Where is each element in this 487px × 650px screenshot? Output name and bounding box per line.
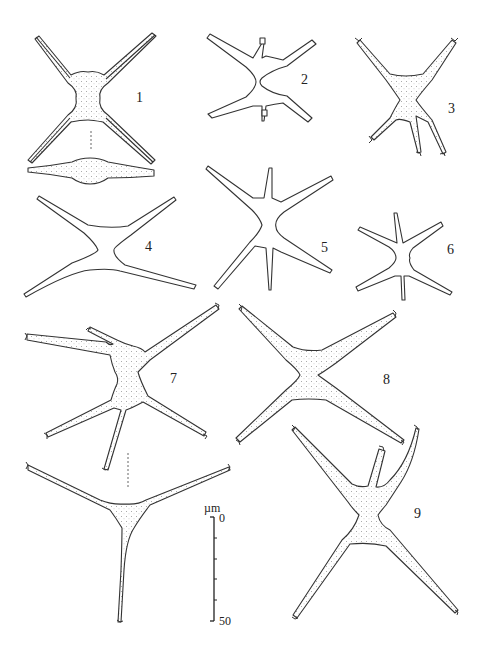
figure-label-2: 2 <box>301 73 308 87</box>
figure-6 <box>356 213 452 300</box>
figure-7 <box>25 303 230 622</box>
figure-2-bottom-tip <box>262 110 267 116</box>
figure-label-1: 1 <box>136 91 143 105</box>
figure-2-top-tip <box>260 38 265 44</box>
scale-max-label: 50 <box>219 615 231 627</box>
figure-1-side-view <box>28 158 154 184</box>
specimen-plate <box>0 0 487 650</box>
figure-label-8: 8 <box>383 373 390 387</box>
figure-label-7: 7 <box>170 372 177 386</box>
scale-bar <box>210 517 217 621</box>
figure-2 <box>207 34 316 122</box>
figure-7-front-view <box>27 305 219 470</box>
figure-label-3: 3 <box>448 102 455 116</box>
figure-label-5: 5 <box>321 241 328 255</box>
figure-5 <box>206 166 333 290</box>
figure-8 <box>236 304 404 445</box>
figure-3 <box>355 38 458 156</box>
figure-label-6: 6 <box>447 243 454 257</box>
figure-1 <box>28 33 156 184</box>
scale-unit-label: µm <box>204 502 220 514</box>
figure-7-apical-view <box>28 465 230 622</box>
figure-label-4: 4 <box>145 240 152 254</box>
figure-9 <box>292 425 458 619</box>
figure-label-9: 9 <box>414 507 421 521</box>
figure-4 <box>24 196 196 297</box>
scale-min-label: 0 <box>219 512 225 524</box>
